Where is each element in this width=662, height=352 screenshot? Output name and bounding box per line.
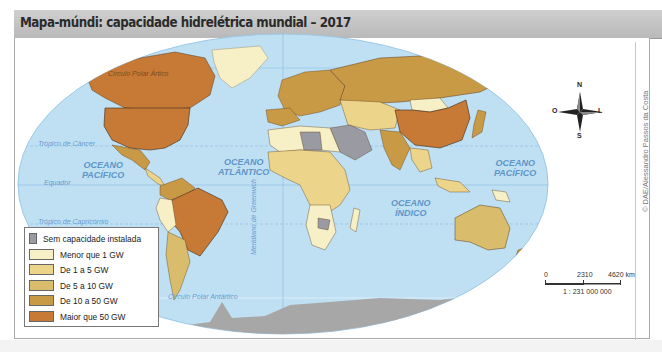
scale-segment-light	[583, 283, 621, 285]
legend-item-gt50: Maior que 50 GW	[29, 309, 154, 325]
legend-label: Maior que 50 GW	[60, 311, 126, 322]
tropic-cancer-label: Trópico de Câncer	[38, 140, 95, 147]
legend-swatch	[29, 295, 54, 306]
legend-item-none: Sem capacidade instalada	[29, 231, 154, 247]
legend-item-1to5: De 1 a 5 GW	[29, 262, 154, 278]
page-bottom	[0, 340, 662, 352]
compass-north: N	[577, 81, 582, 88]
arctic-circle-label: Círculo Polar Ártico	[108, 70, 168, 77]
compass-rose-icon	[556, 90, 604, 134]
scale-ratio: 1 : 231 000 000	[563, 288, 612, 295]
legend-label: De 1 a 5 GW	[60, 264, 108, 275]
scale-end: 4620 km	[608, 271, 635, 278]
compass-south: S	[577, 132, 582, 139]
legend-swatch	[29, 233, 37, 244]
equator-label: Equador	[44, 179, 70, 186]
atlantic-ocean-label: OCEANO ATLÂNTICO	[218, 157, 269, 177]
indian-ocean-label: OCEANO ÍNDICO	[391, 198, 431, 218]
antarctic-circle-label: Círculo Polar Antártico	[168, 293, 238, 300]
legend-item-10to50: De 10 a 50 GW	[29, 293, 154, 309]
legend-swatch	[29, 311, 54, 322]
scale-mid: 2310	[577, 271, 593, 278]
legend-label: Menor que 1 GW	[60, 249, 124, 260]
tropic-capricorn-label: Trópico de Capricórnio	[38, 218, 108, 225]
legend-item-5to10: De 5 a 10 GW	[29, 278, 154, 294]
scale-zero: 0	[544, 271, 548, 278]
compass-east: L	[598, 107, 602, 114]
legend-label: De 10 a 50 GW	[60, 295, 118, 306]
legend-swatch	[29, 280, 54, 291]
pacific-ocean-east-label: OCEANO PACÍFICO	[494, 158, 536, 178]
legend-label: De 5 a 10 GW	[60, 280, 113, 291]
legend-swatch	[29, 264, 54, 275]
legend-swatch	[29, 249, 54, 260]
compass-west: O	[552, 107, 557, 114]
legend-label: Sem capacidade instalada	[43, 233, 141, 244]
greenwich-label: Meridiano de Greenwich	[250, 179, 257, 255]
scale-segment-dark	[545, 283, 583, 285]
legend: Sem capacidade instalada Menor que 1 GW …	[24, 227, 159, 327]
pacific-ocean-west-label: OCEANO PACÍFICO	[82, 160, 124, 180]
legend-item-lt1: Menor que 1 GW	[29, 247, 154, 263]
